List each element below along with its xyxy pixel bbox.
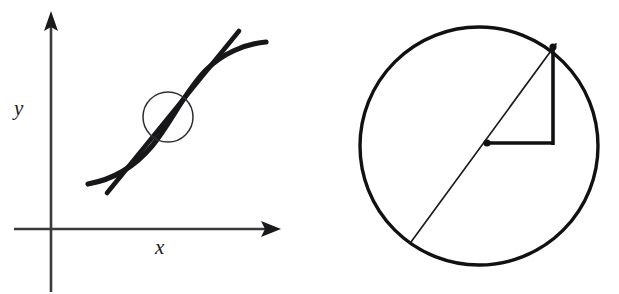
tangent-line xyxy=(107,31,239,193)
big-circle xyxy=(360,27,598,265)
y-axis-label: y xyxy=(14,98,23,119)
point-base-dot xyxy=(483,139,490,146)
figure-root: y x (x + dx, y + dy) (x, y) xyxy=(0,0,619,294)
circle-panel: (x + dx, y + dy) (x, y) dy dx xyxy=(310,0,619,294)
x-axis-label: x xyxy=(155,237,164,258)
tangent-panel: y x xyxy=(0,0,310,294)
curve-path xyxy=(88,42,266,184)
circle-panel-canvas xyxy=(310,0,619,294)
point-upper-dot xyxy=(549,43,556,50)
